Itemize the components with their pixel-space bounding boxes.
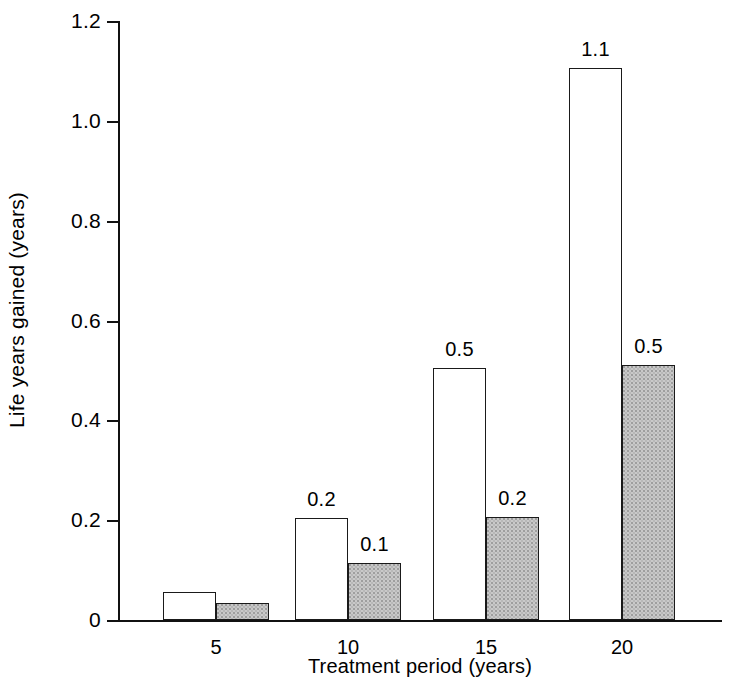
y-tick-label: 0: [89, 608, 101, 632]
bar-value-label-open-bars-10: 0.2: [307, 488, 335, 511]
y-tick-label: 1.0: [71, 108, 101, 132]
y-tick-label: 0.6: [71, 308, 101, 332]
y-tick-mark: [107, 420, 118, 422]
x-axis-label: Treatment period (years): [118, 655, 722, 678]
y-tick-mark: [107, 520, 118, 522]
y-tick-mark: [107, 121, 118, 123]
y-tick-mark: [107, 620, 118, 622]
bar-open-bars-5: [163, 592, 216, 620]
bar-value-label-open-bars-20: 1.1: [581, 38, 609, 61]
y-tick-label: 0.4: [71, 408, 101, 432]
bar-shaded-bars-5: [216, 603, 269, 620]
bar-value-label-shaded-bars-10: 0.1: [360, 533, 388, 556]
bar-open-bars-10: [295, 518, 348, 620]
y-tick-label: 1.2: [71, 9, 101, 33]
y-axis-label: Life years gained (years): [0, 0, 34, 620]
bar-shaded-bars-20: [622, 365, 675, 620]
bar-chart-figure: Life years gained (years) 00.20.40.60.81…: [0, 0, 736, 685]
bar-shaded-bars-10: [348, 563, 401, 620]
bar-value-label-shaded-bars-15: 0.2: [498, 487, 526, 510]
y-tick-label: 0.8: [71, 208, 101, 232]
x-axis-line: [118, 620, 722, 622]
plot-area: 00.20.40.60.81.01.2 5101520 0.20.51.10.1…: [118, 21, 722, 620]
bar-open-bars-15: [433, 368, 486, 620]
y-tick-mark: [107, 21, 118, 23]
y-tick-mark: [107, 321, 118, 323]
y-tick-label: 0.2: [71, 508, 101, 532]
bar-open-bars-20: [569, 68, 622, 620]
bar-value-label-shaded-bars-20: 0.5: [634, 335, 662, 358]
bar-shaded-bars-15: [486, 517, 539, 620]
bar-value-label-open-bars-15: 0.5: [445, 338, 473, 361]
y-axis-line: [118, 21, 120, 620]
y-tick-mark: [107, 221, 118, 223]
